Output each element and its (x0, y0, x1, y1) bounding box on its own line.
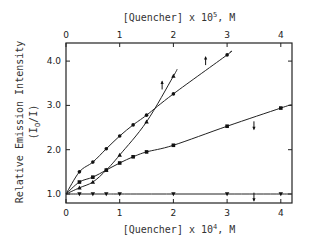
x2-tick-label: 1 (117, 30, 123, 40)
x2-tick-label: 4 (278, 30, 284, 40)
data-point-circles (104, 147, 108, 151)
x2-tick-label: 0 (63, 30, 69, 40)
x-tick-label: 3 (224, 208, 230, 218)
data-point-circles (131, 123, 135, 127)
y-axis-title: Relative Emission Intensity (14, 41, 25, 204)
data-point-circles (145, 113, 149, 117)
y-tick-label: 1.0 (47, 189, 62, 199)
arrow-up-head (161, 80, 164, 84)
y-tick-label: 2.0 (47, 145, 62, 155)
series-line-squares (66, 105, 292, 194)
data-point-squares (145, 150, 149, 154)
x-tick-label: 0 (63, 208, 69, 218)
data-point-squares (279, 106, 283, 110)
y-tick-label: 4.0 (47, 56, 62, 66)
data-point-squares (104, 168, 108, 172)
series-layer (66, 51, 292, 196)
data-point-squares (225, 124, 229, 128)
data-point-circles (78, 170, 82, 174)
y-axis-subtitle: (IO/I) (28, 105, 42, 139)
plot-frame (66, 43, 292, 203)
x2-axis-title: [Quencher] x 105, M (123, 11, 236, 23)
x2-tick-label: 3 (224, 30, 230, 40)
data-point-squares (78, 180, 82, 184)
x-axis-title: [Quencher] x 104, M (123, 223, 236, 235)
series-line-circles (66, 51, 232, 194)
annotations-layer (161, 56, 256, 202)
arrow-up-head (204, 56, 207, 60)
arrow-down-head (252, 127, 255, 131)
data-point-squares (172, 143, 176, 147)
data-point-circles (118, 134, 122, 138)
data-point-circles (172, 92, 176, 96)
data-point-squares (118, 161, 122, 165)
x-tick-label: 1 (117, 208, 123, 218)
x-tick-label: 4 (278, 208, 284, 218)
x2-tick-label: 2 (171, 30, 177, 40)
arrow-down-head (252, 198, 255, 202)
series-line-triangles-up (66, 69, 177, 194)
data-point-squares (91, 175, 95, 179)
x-tick-label: 2 (171, 208, 177, 218)
axis-ticks: 01234012341.02.03.04.0 (47, 30, 292, 218)
stern-volmer-chart: 01234012341.02.03.04.0 [Quencher] x 104,… (0, 0, 310, 248)
data-point-circles (225, 53, 229, 57)
y-tick-label: 3.0 (47, 100, 62, 110)
data-point-squares (131, 155, 135, 159)
data-point-circles (91, 160, 95, 164)
